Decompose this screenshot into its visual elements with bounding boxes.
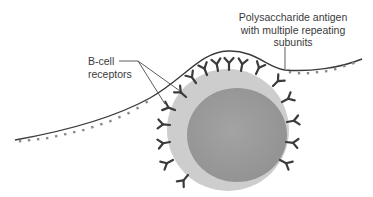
b-cell (167, 69, 289, 191)
antigen-label: Polysaccharide antigen with multiple rep… (224, 11, 362, 49)
cell-nucleus (187, 88, 287, 182)
antigen-label-line-2: with multiple repeating (224, 24, 362, 37)
receptors-label-line-1: B-cell (88, 55, 148, 68)
receptors-label: B-cell receptors (88, 55, 148, 80)
diagram-canvas: Polysaccharide antigen with multiple rep… (0, 0, 373, 197)
antigen-label-line-1: Polysaccharide antigen (224, 11, 362, 24)
receptors-label-line-2: receptors (88, 68, 148, 81)
antigen-label-line-3: subunits (224, 36, 362, 49)
